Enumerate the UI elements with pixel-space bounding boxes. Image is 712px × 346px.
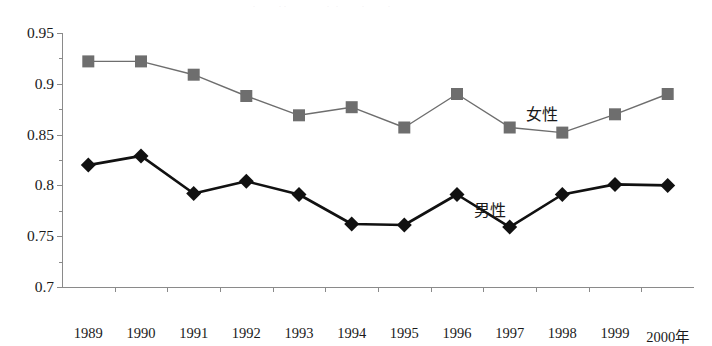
marker-diamond	[81, 158, 96, 173]
x-tick	[431, 287, 432, 292]
x-tick	[378, 287, 379, 292]
x-axis-tick-label: 1997	[495, 325, 524, 342]
marker-diamond	[344, 217, 359, 232]
marker-square	[609, 108, 621, 120]
x-axis-tick-label: 1995	[390, 325, 419, 342]
data-series-layer	[62, 33, 694, 287]
x-tick	[273, 287, 274, 292]
x-tick	[325, 287, 326, 292]
x-tick	[641, 287, 642, 292]
marker-square	[504, 122, 516, 134]
marker-diamond	[555, 187, 570, 202]
series-line	[88, 156, 667, 227]
marker-diamond	[608, 177, 623, 192]
marker-square	[556, 127, 568, 139]
marker-diamond	[239, 174, 254, 189]
x-tick	[483, 287, 484, 292]
cropped-caption-remnant: · —— · — ·· ——— · — ··· —— ·	[40, 336, 370, 342]
plot-area: 0.950.90.850.80.750.7 198919901991199219…	[62, 33, 694, 287]
x-axis-tick-label: 1998	[548, 325, 577, 342]
marker-square	[82, 55, 94, 67]
marker-square	[188, 69, 200, 81]
x-tick	[589, 287, 590, 292]
series-line	[88, 61, 667, 132]
marker-diamond	[397, 218, 412, 233]
marker-square	[398, 122, 410, 134]
y-axis-tick-label: 0.7	[10, 278, 54, 296]
cropped-title-remnant: — —— · — ·· — — · · — · — ·	[205, 0, 505, 7]
series-label-male: 男性	[474, 197, 506, 221]
marker-diamond	[450, 187, 465, 202]
series-label-female: 女性	[526, 101, 558, 125]
marker-square	[662, 88, 674, 100]
x-axis-tick-label: 2000年	[646, 325, 689, 346]
marker-diamond	[292, 187, 307, 202]
y-axis-tick-label: 0.85	[10, 126, 54, 144]
marker-diamond	[660, 178, 675, 193]
x-tick	[115, 287, 116, 292]
series-male	[81, 148, 675, 234]
y-axis-tick-label: 0.75	[10, 227, 54, 245]
marker-square	[346, 101, 358, 113]
marker-square	[240, 90, 252, 102]
y-axis-tick-label: 0.8	[10, 176, 54, 194]
marker-square	[135, 55, 147, 67]
y-axis-tick-label: 0.9	[10, 75, 54, 93]
marker-diamond	[502, 220, 517, 235]
marker-square	[451, 88, 463, 100]
x-tick	[167, 287, 168, 292]
series-female	[82, 55, 673, 138]
x-tick	[220, 287, 221, 292]
x-tick	[536, 287, 537, 292]
x-axis-tick-label: 1996	[443, 325, 472, 342]
x-axis-tick-label: 1999	[601, 325, 630, 342]
marker-square	[293, 109, 305, 121]
y-tick-major	[57, 287, 62, 288]
y-axis-tick-label: 0.95	[10, 24, 54, 42]
